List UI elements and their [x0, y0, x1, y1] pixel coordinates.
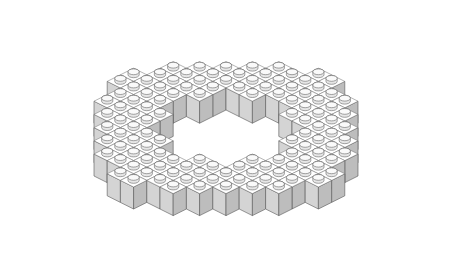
stud-top	[300, 168, 311, 174]
stud-top	[194, 181, 205, 187]
stud-top	[181, 82, 192, 88]
stud-top	[234, 175, 245, 181]
stud-top	[141, 115, 152, 121]
stud-top	[115, 76, 126, 82]
stud-top	[154, 69, 165, 75]
stud-top	[168, 181, 179, 187]
brick-ring-illustration	[0, 0, 452, 262]
stud-top	[194, 62, 205, 68]
brick-cell	[186, 88, 212, 123]
brick-cell	[239, 88, 265, 123]
stud-top	[128, 175, 139, 181]
stud-top	[207, 82, 218, 88]
stud-top	[286, 135, 297, 141]
stud-top	[313, 109, 324, 115]
stud-top	[273, 181, 284, 187]
stud-top	[234, 69, 245, 75]
stud-top	[273, 89, 284, 95]
stud-top	[207, 175, 218, 181]
stud-top	[128, 69, 139, 75]
stud-top	[181, 69, 192, 75]
stud-top	[247, 168, 258, 174]
stud-top	[154, 82, 165, 88]
stud-top	[194, 76, 205, 82]
stud-top	[339, 122, 350, 128]
stud-top	[154, 175, 165, 181]
stud-top	[168, 62, 179, 68]
stud-top	[247, 89, 258, 95]
stud-top	[247, 62, 258, 68]
stud-top	[313, 82, 324, 88]
stud-top	[300, 128, 311, 134]
stud-top	[286, 82, 297, 88]
stud-top	[154, 109, 165, 115]
stud-top	[207, 161, 218, 167]
stud-top	[326, 155, 337, 161]
brick-cell	[239, 180, 265, 215]
brick-cell	[305, 174, 331, 209]
stud-top	[313, 135, 324, 141]
stud-top	[234, 161, 245, 167]
stud-top	[300, 142, 311, 148]
stud-top	[102, 148, 113, 154]
stud-top	[128, 95, 139, 101]
stud-top	[326, 128, 337, 134]
stud-top	[326, 76, 337, 82]
stud-top	[115, 155, 126, 161]
stud-top	[313, 161, 324, 167]
brick-cell	[266, 180, 292, 215]
stud-top	[141, 76, 152, 82]
stud-top	[300, 115, 311, 121]
stud-top	[247, 76, 258, 82]
stud-top	[300, 76, 311, 82]
stud-top	[128, 148, 139, 154]
stud-top	[154, 161, 165, 167]
stud-top	[141, 142, 152, 148]
stud-top	[260, 82, 271, 88]
stud-top	[141, 89, 152, 95]
stud-top	[194, 155, 205, 161]
stud-top	[286, 148, 297, 154]
stud-top	[168, 155, 179, 161]
stud-top	[168, 89, 179, 95]
stud-top	[339, 109, 350, 115]
stud-top	[102, 135, 113, 141]
stud-top	[168, 76, 179, 82]
stud-top	[286, 69, 297, 75]
stud-top	[260, 69, 271, 75]
stud-top	[128, 161, 139, 167]
stud-top	[115, 89, 126, 95]
stud-top	[300, 89, 311, 95]
stud-top	[128, 82, 139, 88]
stud-top	[300, 102, 311, 108]
stud-top	[115, 102, 126, 108]
stud-top	[220, 76, 231, 82]
stud-top	[326, 168, 337, 174]
stud-top	[339, 135, 350, 141]
stud-top	[181, 175, 192, 181]
stud-top	[194, 168, 205, 174]
stud-top	[286, 161, 297, 167]
stud-top	[154, 95, 165, 101]
stud-top	[286, 95, 297, 101]
stud-top	[194, 89, 205, 95]
stud-top	[247, 155, 258, 161]
stud-top	[273, 76, 284, 82]
stud-top	[313, 95, 324, 101]
stud-top	[141, 155, 152, 161]
stud-top	[313, 122, 324, 128]
stud-top	[339, 148, 350, 154]
stud-top	[102, 122, 113, 128]
stud-top	[326, 89, 337, 95]
stud-top	[115, 142, 126, 148]
stud-top	[326, 102, 337, 108]
stud-top	[220, 168, 231, 174]
stud-top	[168, 168, 179, 174]
stud-top	[141, 168, 152, 174]
stud-top	[128, 135, 139, 141]
brick-cell	[186, 180, 212, 215]
stud-top	[326, 142, 337, 148]
stud-top	[326, 115, 337, 121]
stud-top	[115, 168, 126, 174]
stud-top	[273, 168, 284, 174]
